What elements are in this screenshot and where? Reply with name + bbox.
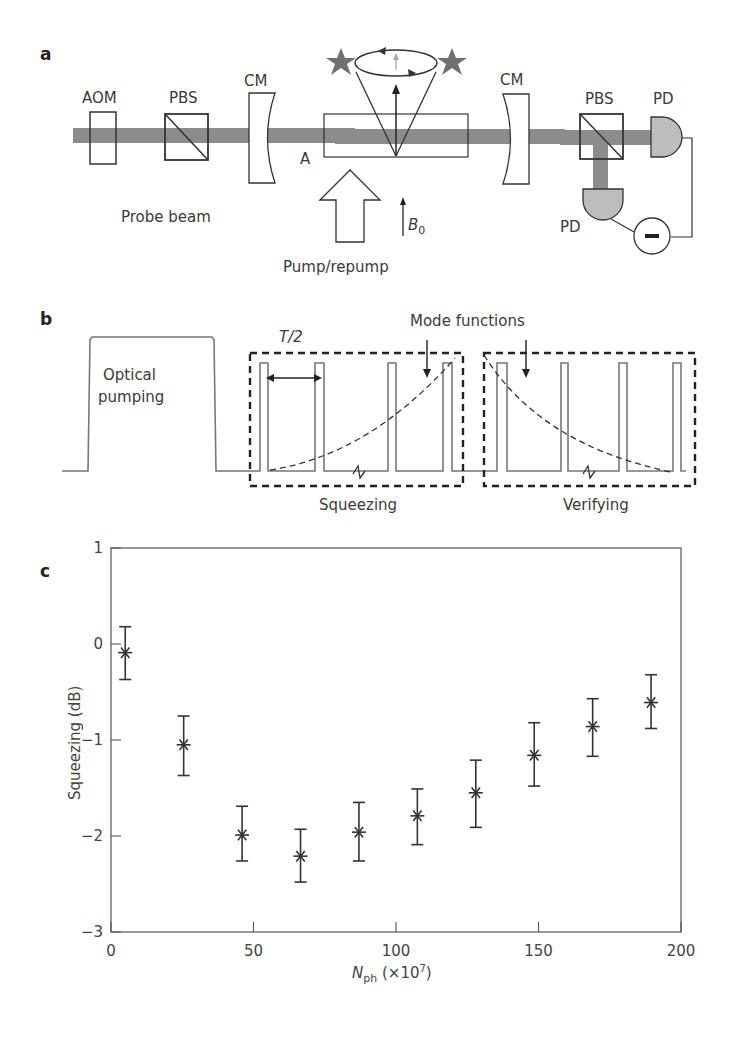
y-axis-label: Squeezing (dB) [66, 686, 84, 800]
data-points [118, 627, 658, 882]
data-point [586, 699, 600, 757]
data-point [352, 802, 366, 861]
y-tick-label: −1 [81, 731, 103, 749]
panel-c-squeezing-chart: c 10−1−2−3 050100150200 Squeezing (dB) N… [0, 0, 736, 1042]
data-point [644, 675, 658, 729]
y-tick-label: 1 [93, 539, 103, 557]
plot-frame [111, 548, 681, 932]
data-point [527, 723, 541, 786]
data-point [118, 627, 132, 680]
y-axis-ticks: 10−1−2−3 [81, 539, 121, 941]
x-tick-label: 100 [382, 942, 411, 960]
data-point [235, 806, 249, 861]
x-axis-ticks: 050100150200 [106, 922, 695, 960]
y-tick-label: −3 [81, 923, 103, 941]
data-point [469, 760, 483, 827]
x-tick-label: 150 [524, 942, 553, 960]
data-point [410, 789, 424, 845]
x-axis-label: Nph (×107) [352, 963, 432, 985]
x-tick-label: 0 [106, 942, 116, 960]
x-tick-label: 50 [244, 942, 263, 960]
data-point [177, 716, 191, 776]
y-tick-label: −2 [81, 827, 103, 845]
data-point [294, 829, 308, 882]
panel-c-label: c [40, 561, 50, 581]
y-tick-label: 0 [93, 635, 103, 653]
x-tick-label: 200 [667, 942, 696, 960]
